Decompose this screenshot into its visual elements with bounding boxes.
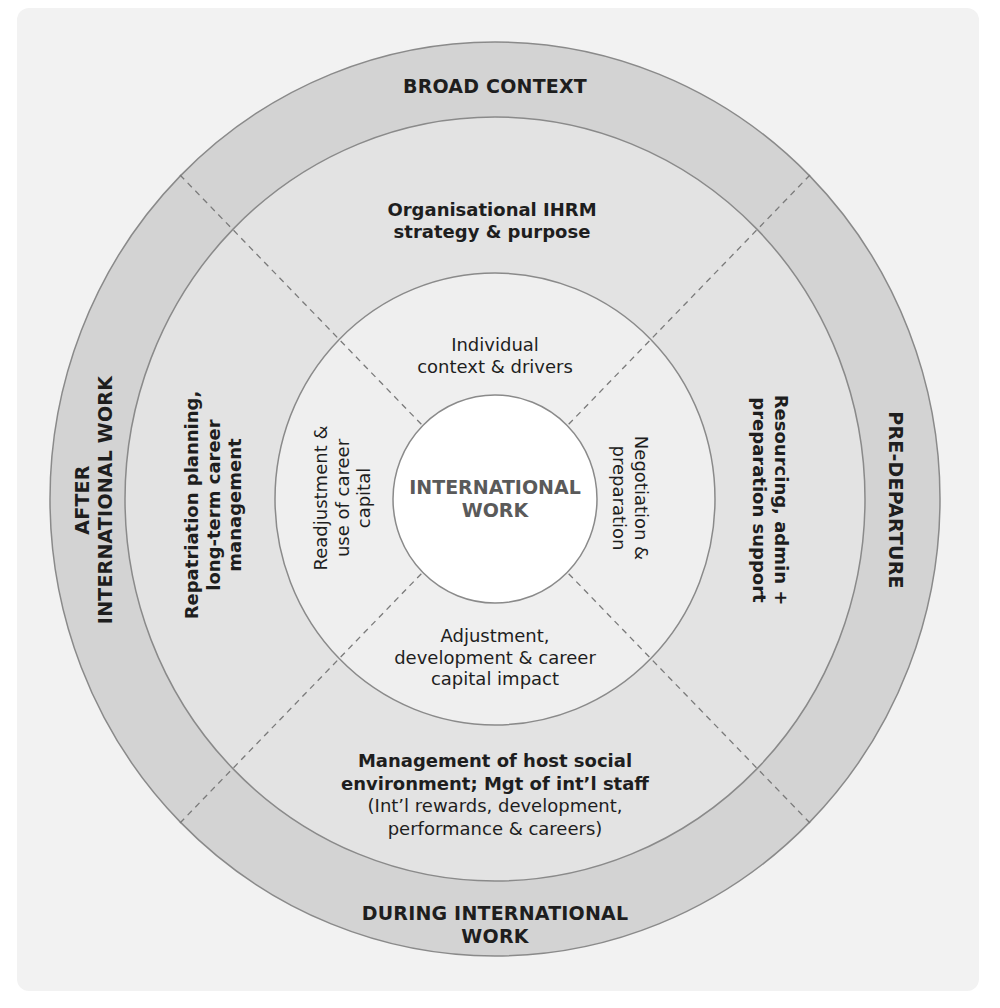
outer-label-bottom: DURING INTERNATIONAL WORK: [362, 902, 629, 948]
host-management-line4: performance & careers): [341, 818, 649, 841]
inner-label-bottom: Adjustment, development & career capital…: [394, 625, 596, 690]
host-management-line1: Management of host social: [341, 750, 649, 773]
inner-label-left: Readjustment & use of career capital: [310, 426, 375, 571]
negotiation-line2: preparation: [608, 436, 630, 560]
during-label-line2: WORK: [362, 925, 629, 948]
individual-context-line1: Individual: [417, 334, 573, 356]
middle-label-bottom: Management of host social environment; M…: [341, 750, 649, 840]
pre-departure-label: PRE-DEPARTURE: [885, 411, 907, 588]
ihrm-strategy-line2: strategy & purpose: [387, 221, 596, 243]
resourcing-line2: preparation support: [748, 395, 770, 606]
resourcing-line1: Resourcing, admin +: [770, 395, 792, 606]
repatriation-line2: long-term career: [202, 391, 224, 620]
outer-label-right: PRE-DEPARTURE: [885, 411, 908, 588]
broad-context-label: BROAD CONTEXT: [403, 75, 587, 97]
host-management-line2: environment; Mgt of int’l staff: [341, 773, 649, 796]
middle-label-right: Resourcing, admin + preparation support: [748, 395, 791, 606]
middle-label-top: Organisational IHRM strategy & purpose: [387, 199, 596, 242]
outer-label-top: BROAD CONTEXT: [403, 75, 587, 98]
middle-label-left: Repatriation planning, long-term career …: [181, 391, 246, 620]
readjustment-line1: Readjustment &: [310, 426, 332, 571]
readjustment-line3: capital: [353, 426, 375, 571]
during-label-line1: DURING INTERNATIONAL: [362, 902, 629, 925]
repatriation-line3: management: [224, 391, 246, 620]
ihrm-strategy-line1: Organisational IHRM: [387, 199, 596, 221]
core-label: INTERNATIONAL WORK: [409, 476, 581, 522]
core-label-line1: INTERNATIONAL: [409, 476, 581, 499]
core-label-line2: WORK: [409, 499, 581, 522]
adjustment-line3: capital impact: [394, 668, 596, 690]
outer-label-left: AFTER INTERNATIONAL WORK: [71, 376, 117, 624]
negotiation-line1: Negotiation &: [630, 436, 652, 560]
readjustment-line2: use of career: [331, 426, 353, 571]
adjustment-line1: Adjustment,: [394, 625, 596, 647]
host-management-line3: (Int’l rewards, development,: [341, 795, 649, 818]
adjustment-line2: development & career: [394, 646, 596, 668]
individual-context-line2: context & drivers: [417, 356, 573, 378]
after-label-line2: INTERNATIONAL WORK: [94, 376, 117, 624]
inner-label-top: Individual context & drivers: [417, 334, 573, 377]
after-label-line1: AFTER: [71, 376, 94, 624]
repatriation-line1: Repatriation planning,: [181, 391, 203, 620]
inner-label-right: Negotiation & preparation: [608, 436, 651, 560]
